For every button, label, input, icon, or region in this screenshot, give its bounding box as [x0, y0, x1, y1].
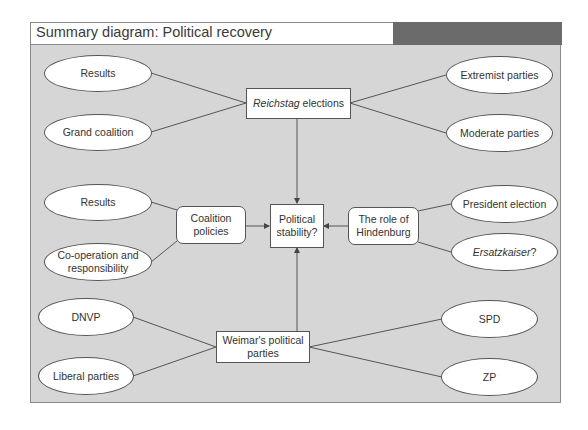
node-dnvp: DNVP	[38, 298, 134, 336]
node-label: ZP	[483, 371, 496, 384]
node-label: Results	[80, 67, 115, 80]
label-line: The role of	[358, 213, 408, 225]
node-ersatzkaiser: Ersatzkaiser?	[451, 233, 558, 271]
node-label: Results	[80, 196, 115, 209]
node-role-of-hindenburg: The role ofHindenburg	[348, 207, 419, 245]
node-label: Coalitionpolicies	[191, 212, 232, 238]
label-line: Hindenburg	[356, 226, 410, 238]
node-spd: SPD	[441, 300, 538, 338]
node-cooperation-responsibility: Co-operation andresponsibility	[44, 243, 152, 281]
label-line: parties	[247, 347, 279, 359]
node-label: Politicalstability?	[277, 213, 318, 239]
label-italic: Ersatzkaiser	[473, 246, 531, 258]
node-moderate-parties: Moderate parties	[446, 114, 553, 152]
label-line: policies	[193, 225, 228, 237]
node-label: Weimar's politicalparties	[222, 334, 303, 360]
node-label: The role ofHindenburg	[356, 213, 410, 239]
node-label: Grand coalition	[63, 126, 134, 139]
node-president-election: President election	[451, 185, 558, 223]
node-label: Moderate parties	[460, 127, 539, 140]
node-liberal-parties: Liberal parties	[38, 357, 134, 395]
node-grand-coalition: Grand coalition	[44, 114, 152, 151]
node-label: DNVP	[71, 311, 100, 324]
node-label: SPD	[479, 313, 501, 326]
node-label: Co-operation andresponsibility	[57, 249, 138, 275]
node-political-stability: Politicalstability?	[270, 204, 324, 248]
node-label: Liberal parties	[53, 370, 119, 383]
label-rest: elections	[300, 97, 344, 109]
node-results-reichstag: Results	[44, 55, 152, 92]
label-line: responsibility	[68, 262, 129, 274]
node-zp: ZP	[441, 358, 538, 396]
node-weimar-political-parties: Weimar's politicalparties	[216, 331, 310, 363]
label-line: Coalition	[191, 212, 232, 224]
node-reichstag-elections: Reichstag elections	[246, 88, 351, 119]
label-line: Political	[279, 213, 315, 225]
label-line: Weimar's political	[222, 334, 303, 346]
node-label: Extremist parties	[460, 69, 538, 82]
node-results-coalition: Results	[44, 184, 152, 221]
label-rest: ?	[530, 246, 536, 258]
node-label: President election	[463, 198, 546, 211]
node-label: Ersatzkaiser?	[473, 246, 537, 259]
node-label: Reichstag elections	[253, 97, 344, 110]
node-extremist-parties: Extremist parties	[446, 56, 553, 94]
node-coalition-policies: Coalitionpolicies	[176, 206, 246, 244]
label-line: Co-operation and	[57, 249, 138, 261]
label-line: stability?	[277, 226, 318, 238]
label-italic: Reichstag	[253, 97, 300, 109]
